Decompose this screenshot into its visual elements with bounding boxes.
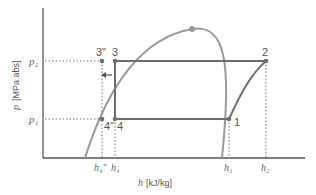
label-point-1: 1 [234, 116, 240, 128]
label-point-4pp: 4" [104, 120, 114, 132]
label-point-3pp: 3" [96, 46, 106, 58]
label-point-4: 4 [117, 120, 123, 132]
tick-h4: h₄ [111, 162, 120, 173]
tick-h1: h₁ [224, 162, 232, 173]
svg-text:[kJ/kg]: [kJ/kg] [146, 178, 172, 188]
tick-h4pp: h₄" [94, 162, 107, 173]
x-axis-title: h [kJ/kg] [138, 177, 172, 188]
ph-diagram: 3" 3 2 1 4" 4 p₂ p₁ p [MPa abs] h₄" h₄ h… [0, 0, 316, 195]
svg-text:h: h [138, 177, 143, 188]
svg-text:p: p [10, 105, 21, 111]
subcooling-arrow-icon [101, 72, 112, 78]
svg-text:[MPa abs]: [MPa abs] [11, 60, 21, 101]
label-p2: p₂ [28, 55, 39, 67]
label-p1: p₁ [28, 113, 39, 125]
refrigeration-cycle [115, 61, 266, 119]
critical-point [189, 26, 195, 32]
tick-h2: h₂ [261, 162, 270, 173]
label-point-2: 2 [262, 46, 268, 58]
label-point-3: 3 [112, 46, 118, 58]
saturation-dome [85, 29, 226, 158]
y-axis-title: p [MPa abs] [10, 60, 21, 111]
